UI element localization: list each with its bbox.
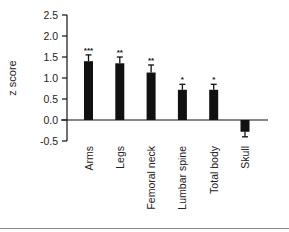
y-tick-label: 1.5 xyxy=(43,51,58,63)
bars: ********* xyxy=(61,46,268,137)
bar-rect xyxy=(178,90,187,120)
bar-legs: ** xyxy=(115,48,124,120)
x-category-label: Lumbar spine xyxy=(176,146,188,210)
bar-arms: *** xyxy=(84,46,94,120)
x-category-label: Total body xyxy=(208,145,220,194)
bar-lumbar-spine: * xyxy=(178,75,187,120)
bar-femoral-neck: ** xyxy=(147,56,156,120)
significance-marker: ** xyxy=(148,56,155,65)
y-axis-title: z score xyxy=(6,60,18,95)
bar-rect xyxy=(115,63,124,120)
y-tick-label: 0.5 xyxy=(43,93,58,105)
bottom-divider xyxy=(0,228,289,229)
y-axis: 2.52.01.51.00.50.0-0.5 xyxy=(40,9,67,147)
y-tick-label: 0.0 xyxy=(43,114,58,126)
x-category-label: Legs xyxy=(114,146,126,169)
bar-rect xyxy=(84,61,93,120)
significance-marker: * xyxy=(181,75,185,84)
significance-marker: *** xyxy=(84,46,94,55)
significance-marker: * xyxy=(212,75,216,84)
y-tick-label: 2.0 xyxy=(43,30,58,42)
y-tick-label: 2.5 xyxy=(43,9,58,21)
x-category-label: Skull xyxy=(239,146,251,169)
bar-total-body: * xyxy=(209,75,218,120)
x-category-label: Arms xyxy=(83,146,95,171)
y-axis-label: z score xyxy=(6,60,18,95)
bar-chart: 2.52.01.51.00.50.0-0.5 z score *********… xyxy=(0,0,289,232)
bar-rect xyxy=(147,73,156,120)
x-axis-labels: ArmsLegsFemoral neckLumbar spineTotal bo… xyxy=(83,145,252,209)
y-tick-label: -0.5 xyxy=(40,135,58,147)
bar-rect xyxy=(241,120,250,132)
x-category-label: Femoral neck xyxy=(145,145,157,209)
significance-marker: ** xyxy=(117,48,124,57)
y-tick-label: 1.0 xyxy=(43,72,58,84)
bar-skull xyxy=(241,120,250,137)
bar-rect xyxy=(209,90,218,120)
